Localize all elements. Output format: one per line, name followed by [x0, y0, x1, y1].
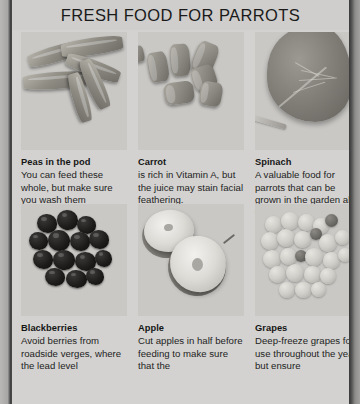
page-gutter-shadow [8, 0, 12, 404]
spinach-photo [255, 32, 349, 150]
peas-in-pod-photo [21, 32, 127, 150]
caption-title: Blackberries [21, 322, 127, 334]
caption-title: Peas in the pod [21, 156, 127, 168]
caption-title: Grapes [255, 322, 349, 334]
food-card-carrot[interactable]: Carrot is rich in Vitamin A, but the jui… [138, 32, 244, 207]
page-right-edge [349, 0, 360, 404]
page-header: FRESH FOOD FOR PARROTS [12, 0, 349, 30]
page-title: FRESH FOOD FOR PARROTS [12, 6, 349, 25]
food-card-blackberries[interactable]: Blackberries Avoid berries from roadside… [21, 204, 127, 373]
food-row-top: Peas in the pod You can feed these whole… [12, 32, 349, 204]
caption-title: Spinach [255, 156, 349, 168]
food-card-spinach[interactable]: Spinach A valuable food for parrots that… [255, 32, 349, 219]
caption-title: Apple [138, 322, 244, 334]
book-page: FRESH FOOD FOR PARROTS Peas in the pod Y… [12, 0, 349, 404]
food-card-apple[interactable]: Apple Cut apples in half before feeding … [138, 204, 244, 373]
caption-grapes: Grapes Deep-freeze grapes for use throug… [255, 322, 349, 373]
food-card-peas[interactable]: Peas in the pod You can feed these whole… [21, 32, 127, 219]
caption-body: Avoid berries from roadside verges, wher… [21, 335, 127, 373]
food-row-bottom: Blackberries Avoid berries from roadside… [12, 204, 349, 404]
food-card-grapes[interactable]: Grapes Deep-freeze grapes for use throug… [255, 204, 349, 373]
apple-photo [138, 204, 244, 316]
caption-title: Carrot [138, 156, 244, 168]
caption-body: Cut apples in half before feeding to mak… [138, 335, 244, 373]
blackberries-photo [21, 204, 127, 316]
caption-carrot: Carrot is rich in Vitamin A, but the jui… [138, 156, 244, 207]
caption-body: Deep-freeze grapes for use throughout th… [255, 335, 349, 373]
caption-body: is rich in Vitamin A, but the juice may … [138, 169, 244, 207]
carrot-photo [138, 32, 244, 150]
page-gutter-soft [0, 0, 8, 404]
caption-blackberries: Blackberries Avoid berries from roadside… [21, 322, 127, 373]
caption-apple: Apple Cut apples in half before feeding … [138, 322, 244, 373]
grapes-photo [255, 204, 349, 316]
